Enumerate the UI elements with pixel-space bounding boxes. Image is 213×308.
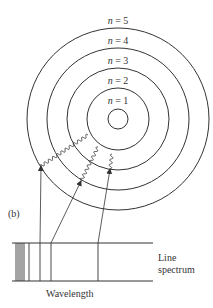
nucleus-circle <box>108 109 128 129</box>
photon-wavy-line <box>41 134 88 166</box>
line-spectrum <box>12 243 153 281</box>
spectrum-label-line2: spectrum <box>158 264 195 275</box>
transition-c <box>98 154 113 243</box>
transition-a <box>40 134 88 243</box>
orbit-label-n1: n = 1 <box>108 95 129 106</box>
orbit-label-n2: n = 2 <box>108 75 129 86</box>
photon-wavy-line <box>109 154 113 169</box>
spectrum-connector-arrow <box>51 181 81 243</box>
orbit-label-n5: n = 5 <box>108 15 129 26</box>
transition-b <box>51 147 98 243</box>
orbit-ring-3 <box>47 48 189 190</box>
panel-label-b: (b) <box>8 208 20 219</box>
orbit-label-n4: n = 4 <box>108 35 129 46</box>
orbit-label-n3: n = 3 <box>108 55 129 66</box>
diagram-canvas <box>0 0 213 308</box>
spectrum-label-line1: Line <box>158 252 176 263</box>
photon-wavy-line <box>80 147 98 181</box>
bohr-model-diagram: n = 5n = 4n = 3n = 2n = 1 (b) Line spect… <box>0 0 213 308</box>
wavelength-axis-label: Wavelength <box>46 288 94 299</box>
spectrum-connector-arrow <box>98 169 110 243</box>
spectrum-connector-arrow <box>40 166 41 243</box>
